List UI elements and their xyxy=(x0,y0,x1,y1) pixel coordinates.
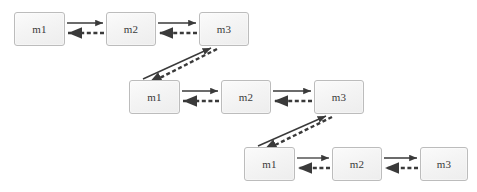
node-label: m1 xyxy=(32,23,47,35)
node-row1-m1[interactable]: m1 xyxy=(14,12,65,46)
node-label: m1 xyxy=(147,91,162,103)
edge-r1m3-to-r2m1-dashed xyxy=(148,49,217,84)
node-label: m3 xyxy=(217,23,232,35)
cross-row-edge-1 xyxy=(143,48,217,84)
node-label: m2 xyxy=(350,158,365,170)
node-label: m2 xyxy=(124,23,139,35)
node-row1-m3[interactable]: m3 xyxy=(199,12,249,46)
node-label: m3 xyxy=(332,91,347,103)
cross-row-edge-2 xyxy=(258,116,332,151)
node-row3-m1[interactable]: m1 xyxy=(244,147,295,181)
node-label: m3 xyxy=(437,158,452,170)
node-row3-m3[interactable]: m3 xyxy=(420,147,468,181)
node-label: m2 xyxy=(239,91,254,103)
node-row3-m2[interactable]: m2 xyxy=(332,147,382,181)
node-row1-m2[interactable]: m2 xyxy=(106,12,156,46)
diagram-canvas: m1 m2 m3 m1 m2 m3 m1 m2 m3 xyxy=(0,0,477,192)
edge-r3m1-to-r2m3-solid xyxy=(258,116,326,146)
node-row2-m1[interactable]: m1 xyxy=(129,80,180,114)
node-label: m1 xyxy=(262,158,277,170)
edge-r2m1-to-r1m3-solid xyxy=(143,48,211,79)
edge-r2m3-to-r3m1-dashed xyxy=(263,117,332,151)
node-row2-m3[interactable]: m3 xyxy=(314,80,364,114)
node-row2-m2[interactable]: m2 xyxy=(221,80,271,114)
